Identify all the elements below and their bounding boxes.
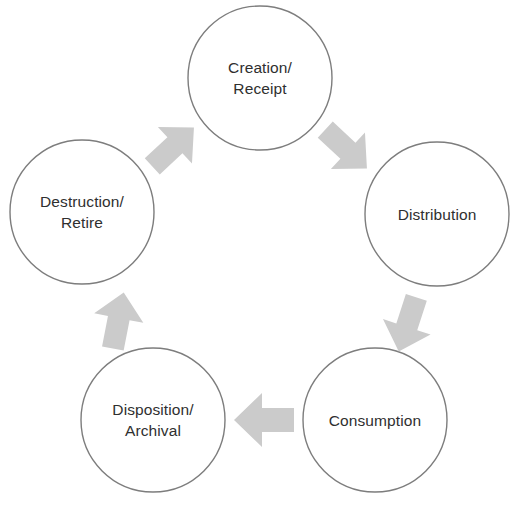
- node-circle-destruction-retire[interactable]: [10, 140, 154, 284]
- node-circle-creation-receipt[interactable]: [188, 6, 332, 150]
- node-circle-consumption[interactable]: [303, 348, 447, 492]
- node-circle-disposition-archival[interactable]: [81, 348, 225, 492]
- arrow-creation-to-distribution-icon: [308, 111, 384, 186]
- arrow-consumption-to-disposition-icon: [234, 393, 294, 447]
- arrow-destruction-to-creation-icon: [135, 109, 211, 184]
- arrow-disposition-to-destruction-icon: [88, 288, 148, 353]
- diagram-canvas: Creation/ Receipt Distribution Consumpti…: [0, 0, 518, 512]
- node-circle-distribution[interactable]: [365, 142, 509, 286]
- lifecycle-diagram: [0, 0, 518, 512]
